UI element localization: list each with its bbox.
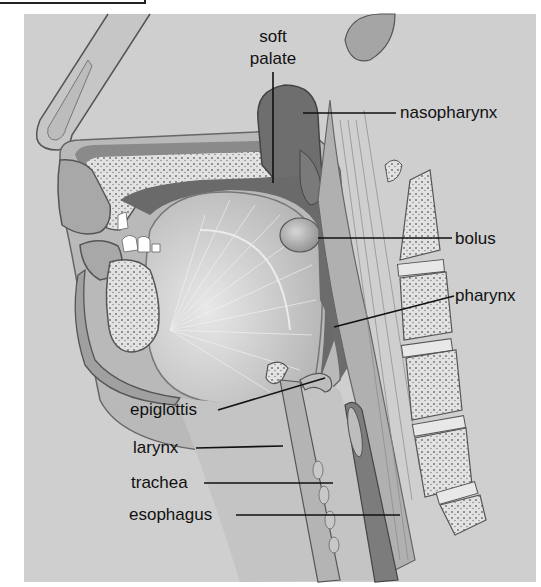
skull-base-bump	[345, 14, 395, 61]
cervical-spine	[385, 160, 486, 535]
label-nasopharynx: nasopharynx	[400, 104, 497, 121]
label-soft-palate-line1: soft	[248, 28, 298, 45]
label-esophagus: esophagus	[129, 506, 212, 523]
nose	[37, 14, 150, 150]
label-larynx: larynx	[133, 439, 178, 456]
label-soft-palate-line2: palate	[243, 50, 303, 67]
label-trachea: trachea	[131, 474, 188, 491]
mandible	[106, 260, 159, 352]
bolus-shape	[280, 218, 320, 252]
label-pharynx: pharynx	[455, 287, 515, 304]
label-bolus: bolus	[455, 230, 496, 247]
label-epiglottis: epiglottis	[130, 401, 197, 418]
